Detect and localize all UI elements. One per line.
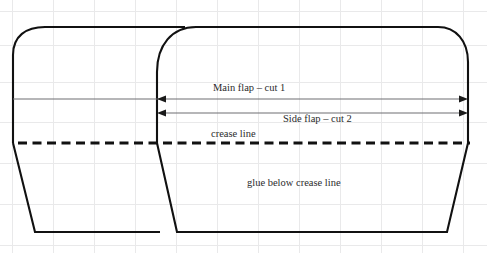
left-flap-lower-edge xyxy=(13,143,160,232)
side-flap-label: Side flap – cut 2 xyxy=(283,114,352,125)
left-flap-outline xyxy=(13,27,185,143)
main-flap-label: Main flap – cut 1 xyxy=(213,83,285,94)
right-flap-outline xyxy=(157,27,468,143)
main-flap-dimension xyxy=(13,95,468,102)
crease-line-label: crease line xyxy=(211,129,256,140)
glue-area-label: glue below crease line xyxy=(247,178,341,189)
diagram-canvas: Main flap – cut 1 Side flap – cut 2 crea… xyxy=(0,0,487,253)
background-grid xyxy=(0,0,487,253)
